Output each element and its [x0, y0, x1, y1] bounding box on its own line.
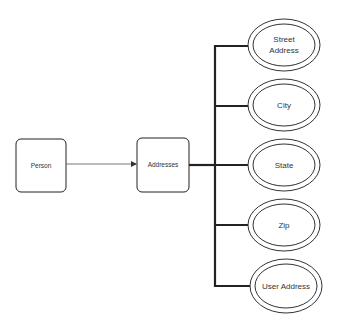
attribute-state[interactable]: State — [248, 139, 320, 191]
entity-addresses-label: Addresses — [148, 161, 179, 168]
attribute-user-address[interactable]: User Address — [250, 259, 322, 313]
attribute-zip-label: Zip — [278, 221, 290, 230]
attribute-state-label: State — [275, 161, 294, 170]
attribute-street-address-label-line1: Street — [273, 35, 295, 44]
attribute-zip[interactable]: Zip — [248, 199, 320, 251]
attribute-city[interactable]: City — [248, 79, 320, 131]
er-diagram: Person Addresses Street Address City Sta… — [0, 0, 341, 323]
entity-addresses[interactable]: Addresses — [137, 138, 189, 192]
attribute-street-address-label-line2: Address — [269, 46, 298, 55]
entity-person[interactable]: Person — [16, 139, 66, 192]
attribute-city-label: City — [277, 101, 291, 110]
attribute-street-address[interactable]: Street Address — [248, 19, 320, 71]
attribute-user-address-label: User Address — [262, 282, 310, 291]
entity-person-label: Person — [31, 162, 52, 169]
